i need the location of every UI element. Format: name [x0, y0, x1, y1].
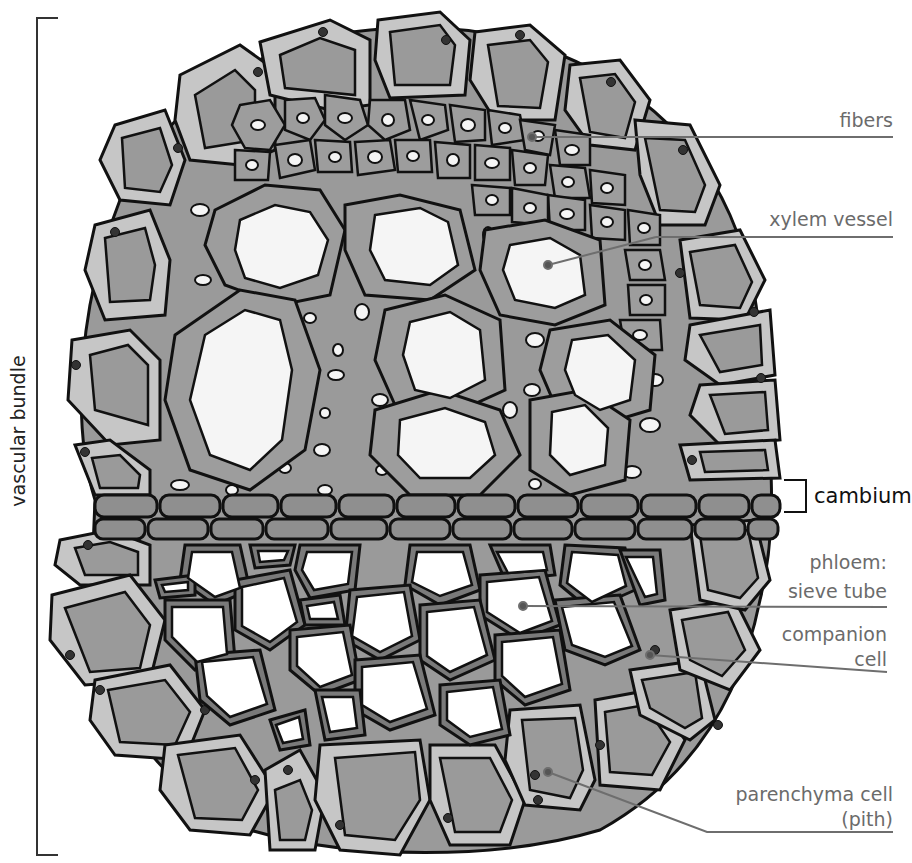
parenchyma-line1: parenchyma cell — [736, 782, 893, 807]
parenchyma-label: parenchyma cell (pith) — [736, 782, 893, 832]
parenchyma-line2: (pith) — [736, 807, 893, 832]
companion-line2: cell — [782, 647, 887, 672]
vascular-bundle-bracket — [37, 18, 58, 855]
cambium-label: cambium — [814, 483, 912, 511]
fibers-text: fibers — [840, 109, 893, 131]
cambium-text: cambium — [814, 484, 912, 508]
fibers-label: fibers — [840, 108, 893, 133]
cambium-bracket — [784, 480, 806, 512]
cambium-layer — [95, 495, 780, 539]
companion-line1: companion — [782, 622, 887, 647]
phloem-label: phloem: sieve tube — [788, 550, 887, 604]
xylem-vessel-text: xylem vessel — [769, 208, 893, 230]
companion-cell-label: companion cell — [782, 622, 887, 672]
xylem-vessel-label: xylem vessel — [769, 207, 893, 232]
phloem-line2: sieve tube — [788, 579, 887, 604]
phloem-line1: phloem: — [788, 550, 887, 575]
vascular-bundle-label: vascular bundle — [7, 351, 29, 511]
